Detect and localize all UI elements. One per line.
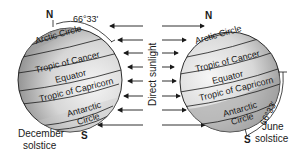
right-globe: Arctic Circle Tropic of Cancer Equator T… [175, 10, 289, 155]
left-caption-line1: December [18, 128, 65, 139]
solstice-diagram: Arctic Circle Tropic of Cancer Equator T… [0, 0, 299, 155]
direct-sunlight-label: Direct sunlight [147, 42, 158, 106]
left-caption-line2: solstice [23, 140, 57, 151]
left-angle-label: 66°33' [73, 14, 99, 24]
right-north-label: N [205, 10, 212, 21]
right-south-label: S [244, 134, 251, 145]
right-caption-line1: June [262, 121, 284, 132]
left-north-label: N [46, 9, 53, 20]
right-caption-line2: solstice [255, 133, 289, 144]
left-south-label: S [81, 130, 88, 141]
left-globe: Arctic Circle Tropic of Cancer Equator T… [0, 0, 126, 155]
